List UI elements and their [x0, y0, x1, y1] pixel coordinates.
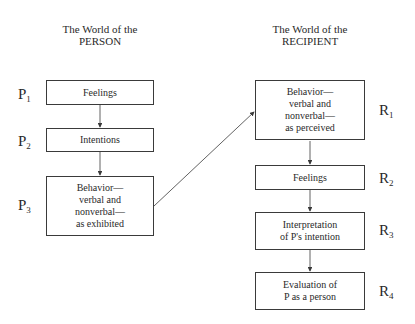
recipient-header: The World of the RECIPIENT — [250, 23, 370, 47]
label-r1: R1 — [379, 102, 394, 123]
recipient-header-line1: The World of the — [250, 23, 370, 35]
recipient-header-line2: RECIPIENT — [250, 35, 370, 47]
person-header: The World of the PERSON — [40, 23, 160, 47]
box-r1-behavior-perceived: Behavior— verbal and nonverbal— as perce… — [255, 80, 365, 140]
box-p3-behavior-exhibited: Behavior— verbal and nonverbal— as exhib… — [46, 176, 154, 236]
label-p2: P2 — [18, 133, 31, 154]
box-r2-feelings: Feelings — [255, 165, 365, 190]
label-r2: R2 — [379, 170, 394, 191]
box-r4-evaluation: Evaluation of P as a person — [255, 272, 365, 310]
label-p3: P3 — [18, 197, 31, 218]
arrow-p3-r1 — [154, 112, 254, 206]
person-header-line2: PERSON — [40, 35, 160, 47]
label-r3: R3 — [379, 222, 394, 243]
box-p1-feelings: Feelings — [46, 80, 154, 105]
label-r4: R4 — [379, 283, 394, 304]
person-header-line1: The World of the — [40, 23, 160, 35]
box-r3-interpretation: Interpretation of P's intention — [255, 212, 365, 250]
label-p1: P1 — [18, 86, 31, 107]
box-p2-intentions: Intentions — [46, 128, 154, 152]
